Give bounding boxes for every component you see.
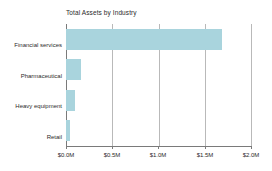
bar-row <box>66 24 251 55</box>
x-tick-4 <box>251 146 252 149</box>
plot-area <box>66 24 251 146</box>
bar-chart: Total Assets by Industry Financial servi… <box>0 0 272 171</box>
y-tick-label-retail: Retail <box>0 133 62 141</box>
x-tick-label-0: $0.0M <box>58 151 75 159</box>
x-tick-2 <box>158 146 159 149</box>
x-tick-0 <box>66 146 67 149</box>
x-tick-1 <box>112 146 113 149</box>
bar-financial-services[interactable] <box>66 29 222 50</box>
chart-title: Total Assets by Industry <box>66 9 137 16</box>
bar-retail[interactable] <box>66 120 70 141</box>
x-tick-label-4: $2.0M <box>243 151 260 159</box>
gridline-3 <box>251 24 252 146</box>
bar-row <box>66 85 251 116</box>
bar-pharmaceutical[interactable] <box>66 59 81 80</box>
y-tick-label-heavy-equipment: Heavy equipment <box>0 102 62 110</box>
x-tick-3 <box>205 146 206 149</box>
x-axis-line <box>66 146 252 147</box>
bar-row <box>66 55 251 86</box>
x-tick-label-1: $0.5M <box>104 151 121 159</box>
bar-heavy-equipment[interactable] <box>66 90 75 111</box>
y-tick-label-pharmaceutical: Pharmaceutical <box>0 72 62 80</box>
x-tick-label-2: $1.0M <box>150 151 167 159</box>
y-tick-label-financial-services: Financial services <box>0 41 62 49</box>
bar-row <box>66 116 251 147</box>
x-tick-label-3: $1.5M <box>197 151 214 159</box>
